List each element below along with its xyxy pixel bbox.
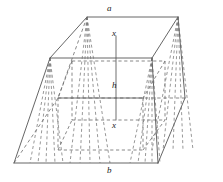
inner-bottom-right-diag xyxy=(143,120,165,150)
inner-bottom-left-diag xyxy=(58,120,72,150)
slant-edge-front-right xyxy=(152,58,158,163)
fan-line xyxy=(50,58,55,163)
fan-line xyxy=(178,17,193,150)
top-x-label: x xyxy=(112,29,116,38)
fan-line xyxy=(70,17,87,163)
fan-lines-back-left-vertex xyxy=(70,17,110,163)
slant-edge-front-left xyxy=(14,58,50,163)
inner-top-left-edge xyxy=(58,61,72,98)
fan-line xyxy=(145,58,152,163)
fan-line xyxy=(138,58,152,163)
top-edge-label-a: a xyxy=(107,4,112,13)
height-label-h: h xyxy=(112,81,117,90)
slant-edge-back-left xyxy=(58,17,87,98)
fan-lines-back-right-vertex xyxy=(152,17,193,150)
fan-line xyxy=(178,17,183,150)
bottom-x-label: x xyxy=(112,121,116,130)
fan-line xyxy=(80,17,87,163)
fan-line xyxy=(173,17,178,150)
fan-line xyxy=(87,17,90,163)
base-front-right-edge xyxy=(158,98,185,163)
base-hidden-edges xyxy=(14,17,185,163)
frustum-figure: a x h x b xyxy=(0,0,223,182)
top-face-left-edge xyxy=(50,17,87,58)
bottom-edge-label-b: b xyxy=(107,166,112,175)
fan-line xyxy=(87,17,100,163)
frustum-outer-solid-edges xyxy=(14,17,185,163)
fan-lines-front-right-vertex xyxy=(130,58,160,163)
fan-line xyxy=(87,17,110,163)
fan-line xyxy=(50,58,63,163)
